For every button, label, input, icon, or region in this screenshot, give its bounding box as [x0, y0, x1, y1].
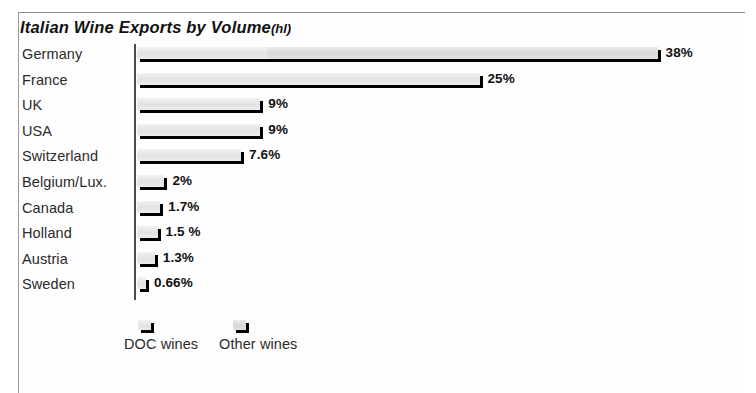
- chart-row: France25%: [0, 69, 727, 95]
- bar-value-label: 1.7%: [168, 199, 199, 214]
- chart-row: Holland1.5 %: [0, 222, 727, 248]
- chart-row: UK9%: [0, 94, 727, 120]
- other-wines-swatch: [233, 320, 246, 330]
- bar-value-label: 9%: [268, 96, 288, 111]
- bar-value-label: 9%: [268, 122, 288, 137]
- scanned-page: Italian Wine Exports by Volume(hl) Germa…: [0, 0, 756, 393]
- chart-row: Switzerland7.6%: [0, 145, 727, 171]
- chart-row: USA9%: [0, 120, 727, 146]
- doc-wines-swatch: [138, 320, 151, 330]
- bar-value-label: 0.66%: [154, 275, 193, 290]
- bar: [137, 98, 260, 114]
- bar: [137, 277, 146, 293]
- category-label: France: [22, 72, 128, 88]
- category-label: USA: [22, 123, 128, 139]
- bar-value-label: 1.5 %: [166, 224, 201, 239]
- legend-item[interactable]: Other wines: [219, 320, 297, 352]
- category-label: Holland: [22, 225, 128, 241]
- category-label: Canada: [22, 200, 128, 216]
- bar-segment-doc-wines: [137, 201, 160, 213]
- plot-area: Germany38%France25%UK9%USA9%Switzerland7…: [0, 34, 727, 304]
- bar-segment-doc-wines: [137, 175, 164, 187]
- category-label: UK: [22, 97, 128, 113]
- bar-segment-doc-wines: [137, 73, 480, 85]
- category-label: Switzerland: [22, 148, 128, 164]
- bar-segment-doc-wines: [137, 47, 267, 59]
- bar-value-label: 38%: [666, 45, 693, 60]
- bar: [137, 175, 164, 191]
- bar-segment-doc-wines: [137, 252, 155, 264]
- bar: [137, 226, 158, 242]
- bar-segment-doc-wines: [137, 226, 158, 238]
- bar: [137, 201, 160, 217]
- legend-label: DOC wines: [124, 336, 198, 352]
- bar-segment-doc-wines: [137, 124, 260, 136]
- bar-segment-doc-wines: [137, 98, 260, 110]
- chart-row: Canada1.7%: [0, 197, 727, 223]
- category-label: Austria: [22, 251, 128, 267]
- bar: [137, 124, 260, 140]
- bar-value-label: 1.3%: [163, 250, 194, 265]
- bar-value-label: 7.6%: [249, 147, 280, 162]
- category-label: Belgium/Lux.: [22, 174, 128, 190]
- bar: [137, 149, 241, 165]
- chart-legend: DOC winesOther wines: [0, 320, 727, 368]
- legend-label: Other wines: [219, 336, 297, 352]
- bar-value-label: 2%: [172, 173, 192, 188]
- bar: [137, 47, 658, 63]
- bar-segment-other-wines: [267, 47, 657, 59]
- category-label: Sweden: [22, 276, 128, 292]
- chart-row: Germany38%: [0, 43, 727, 69]
- chart-row: Belgium/Lux.2%: [0, 171, 727, 197]
- bar: [137, 252, 155, 268]
- category-label: Germany: [22, 46, 128, 62]
- chart-row: Austria1.3%: [0, 248, 727, 274]
- bar-segment-doc-wines: [137, 149, 241, 161]
- bar-segment-doc-wines: [137, 277, 146, 289]
- chart-row: Sweden0.66%: [0, 273, 727, 299]
- legend-item[interactable]: DOC wines: [124, 320, 198, 352]
- bar: [137, 73, 480, 89]
- bar-value-label: 25%: [488, 71, 515, 86]
